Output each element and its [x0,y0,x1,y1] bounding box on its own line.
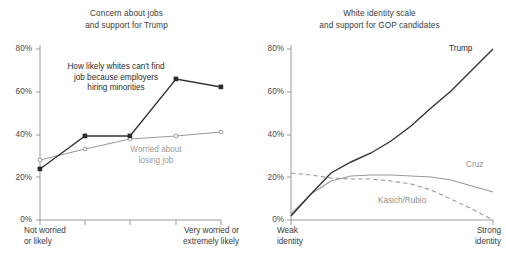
left-annotation-worried-losing-job: Worried about losing job [110,145,202,166]
right-xcat-weak-identity: Weak identity [277,226,303,247]
left-xcat-right-line-1: Very worried or [153,226,239,237]
left-xcat-left-line-1: Not worried [24,226,66,237]
right-y-tickmarks [287,49,291,220]
left-annotation-gray-line-2: losing job [110,156,202,167]
right-xcat-strong-identity: Strong identity [449,226,501,247]
left-annotation-dark-line-3: hiring minorities [36,83,196,94]
right-xcat-right-line-2: identity [449,237,501,248]
right-xcat-left-line-2: identity [277,237,303,248]
left-annotation-gray-line-1: Worried about [110,145,202,156]
right-annotation-trump: Trump [449,44,472,55]
right-xcat-right-line-1: Strong [449,226,501,237]
panel-white-identity-scale: White identity scale and support for GOP… [253,0,506,263]
left-plot-area [0,0,253,263]
right-x-tickmarks [291,220,493,225]
left-xcat-not-worried: Not worried or likely [24,226,66,247]
right-annotation-cruz: Cruz [466,160,483,171]
panel-concern-about-jobs: Concern about jobs and support for Trump… [0,0,253,263]
right-xcat-left-line-1: Weak [277,226,303,237]
left-annotation-dark-line-2: job because employers [36,73,196,84]
left-annotation-dark-line-1: How likely whites can't find [36,62,196,73]
left-annotation-job-competition: How likely whites can't find job because… [36,62,196,94]
right-series-trump-line [291,49,493,216]
left-xcat-left-line-2: or likely [24,237,66,248]
figure-root: Concern about jobs and support for Trump… [0,0,506,263]
left-x-tickmarks [40,220,221,225]
right-annotation-kasich-rubio: Kasich/Rubio [378,196,426,207]
left-xcat-right-line-2: extremely likely [153,237,239,248]
right-plot-area [253,0,506,263]
left-xcat-very-worried: Very worried or extremely likely [153,226,239,247]
